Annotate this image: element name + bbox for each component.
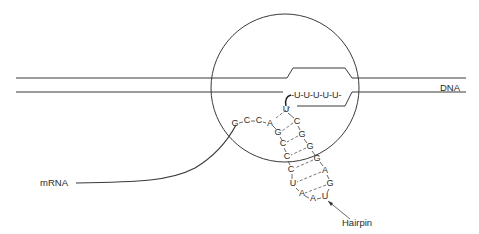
base-stem-left-4: C bbox=[288, 164, 295, 174]
base-leader-2: C bbox=[256, 115, 263, 125]
base-pair-dashes bbox=[276, 107, 326, 193]
stem-right: C G G G bbox=[288, 113, 321, 163]
hairpin-label: Hairpin bbox=[342, 217, 372, 228]
base-leader-3: A bbox=[267, 118, 273, 128]
poly-u-tail: -U-U-U-U-U- bbox=[291, 90, 341, 100]
pair-dash-5 bbox=[297, 172, 321, 182]
base-loop-a1: A bbox=[322, 165, 328, 175]
hairpin-loop: A G U A A bbox=[296, 162, 334, 203]
pair-dash-3 bbox=[291, 148, 306, 155]
base-loop-g: G bbox=[326, 178, 333, 188]
hairpin-arrow-icon bbox=[328, 201, 333, 206]
base-leader-1: C bbox=[244, 115, 251, 125]
mrna-label: mRNA bbox=[40, 177, 69, 188]
base-stem-right-2: G bbox=[306, 141, 313, 151]
base-stem-right-1: G bbox=[298, 129, 305, 139]
base-leader-0: G bbox=[231, 118, 238, 128]
transcription-termination-diagram: DNA -U-U-U-U-U- mRNA G C C A U G C C C U… bbox=[0, 0, 479, 234]
base-stem-left-5: U bbox=[290, 178, 297, 188]
dna-template-top-strand bbox=[16, 68, 466, 78]
base-stem-right-0: C bbox=[294, 116, 301, 126]
leader-sequence: G C C A bbox=[231, 115, 273, 128]
base-loop-a3: A bbox=[299, 188, 305, 198]
base-loop-a2: A bbox=[310, 193, 316, 203]
pair-dash-2 bbox=[287, 136, 298, 142]
mrna-strand bbox=[76, 125, 236, 183]
dna-label: DNA bbox=[440, 82, 461, 93]
base-stem-left-2: C bbox=[280, 138, 287, 148]
pair-dash-1 bbox=[282, 123, 293, 131]
base-stem-left-3: C bbox=[284, 151, 291, 161]
